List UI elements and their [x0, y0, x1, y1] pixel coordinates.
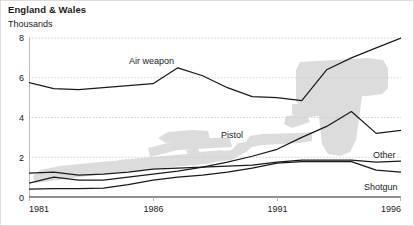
- y-tick-label: 4: [19, 113, 24, 123]
- chart-figure: England & Wales Thousands: [0, 0, 414, 226]
- watermark-layer: [33, 58, 388, 183]
- x-tick-label: 1981: [29, 204, 49, 214]
- x-axis-ticks: [30, 197, 401, 201]
- x-tick-label: 1996: [381, 204, 401, 214]
- x-tick-label: 1986: [143, 204, 163, 214]
- y-axis-tick-labels: 8 6 4 2 0: [19, 33, 24, 203]
- line-chart-plot: 8 6 4 2 0 1981 1986 1991 1996 Air weapon…: [0, 0, 414, 226]
- series-label-air-weapon: Air weapon: [129, 56, 174, 66]
- y-tick-label: 6: [19, 73, 24, 83]
- x-tick-label: 1991: [267, 204, 287, 214]
- y-tick-label: 2: [19, 153, 24, 163]
- y-tick-label: 0: [19, 193, 24, 203]
- series-label-shotgun: Shotgun: [364, 182, 398, 192]
- series-label-other: Other: [373, 150, 396, 160]
- series-label-pistol: Pistol: [221, 130, 243, 140]
- x-axis-tick-labels: 1981 1986 1991 1996: [29, 204, 401, 214]
- y-tick-label: 8: [19, 33, 24, 43]
